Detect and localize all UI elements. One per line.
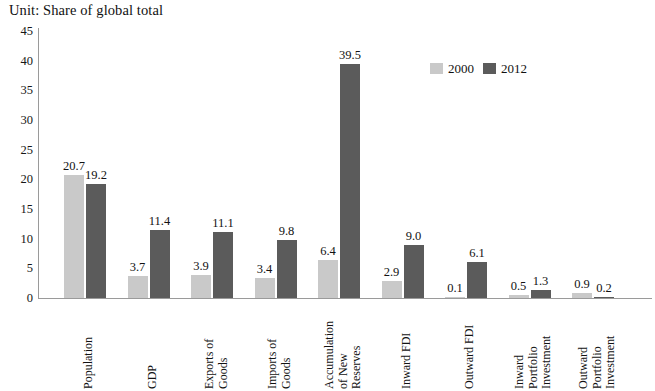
bar-value-label: 20.7 [63,160,85,173]
chart-legend: 20002012 [430,62,527,75]
bar-value-label: 6.4 [320,245,336,258]
x-axis-label-4: Imports of Goods [266,303,293,389]
bar-2012-5 [340,64,360,298]
bar-value-label: 2.9 [384,266,400,279]
legend-swatch-2000 [430,63,443,74]
bar-2000-4 [255,278,275,298]
x-axis-label-7: Outward FDI [463,303,477,389]
bar-2000-9 [572,293,592,298]
bar-2012-2 [150,230,170,298]
x-axis-label-9: Outward Portfolio Investment [577,303,618,389]
chart-title: Unit: Share of global total [9,1,163,19]
bar-value-label: 3.9 [193,260,209,273]
bar-2000-1 [64,175,84,298]
bar-value-label: 39.5 [339,49,361,62]
bar-2012-9 [594,297,614,298]
bar-value-label: 3.4 [257,263,273,276]
legend-item-2012[interactable]: 2012 [483,62,527,75]
y-axis-tick-label: 15 [21,203,34,215]
y-axis-tick-label: 45 [21,25,34,37]
bar-value-label: 11.4 [149,215,170,228]
bar-value-label: 1.3 [533,275,549,288]
bar-2000-5 [318,260,338,298]
bar-value-label: 6.1 [469,247,485,260]
bar-2012-7 [467,262,487,298]
x-axis-label-8: Inward Portfolio Investment [513,303,554,389]
bar-value-label: 0.5 [511,280,527,293]
bar-chart: Unit: Share of global total 051015202530… [0,0,655,391]
x-axis-label-3: Exports of Goods [203,303,230,389]
bar-2000-7 [445,297,465,298]
legend-label: 2012 [501,62,527,75]
bar-value-label: 9.0 [406,230,422,243]
legend-label: 2000 [448,62,474,75]
x-axis-line [38,298,652,299]
y-axis-tick-label: 0 [27,292,33,304]
bar-2012-1 [86,184,106,298]
legend-item-2000[interactable]: 2000 [430,62,474,75]
bar-value-label: 0.1 [447,282,463,295]
bar-2000-3 [191,275,211,298]
bar-2012-4 [277,240,297,298]
x-axis-label-6: Inward FDI [400,303,414,389]
y-axis-tick-label: 35 [21,84,34,96]
bar-value-label: 3.7 [130,261,146,274]
x-axis-label-2: GDP [146,303,160,389]
bar-value-label: 9.8 [279,225,295,238]
bar-2012-3 [213,232,233,298]
bar-value-label: 11.1 [212,217,233,230]
x-axis-label-1: Population [82,303,96,389]
bar-2000-2 [128,276,148,298]
y-axis-tick-label: 25 [21,144,34,156]
bar-2012-6 [404,245,424,298]
bar-2012-8 [531,290,551,298]
legend-swatch-2012 [483,63,496,74]
y-axis-tick-label: 40 [21,55,34,67]
bar-value-label: 0.9 [574,278,590,291]
y-axis-tick-label: 30 [21,114,34,126]
x-axis-label-5: Accumulation of New Reserves [323,303,364,389]
bar-value-label: 0.2 [596,282,612,295]
bar-2000-6 [382,281,402,298]
y-axis-tick-label: 20 [21,173,34,185]
y-axis-tick-label: 5 [27,262,33,274]
bar-2000-8 [509,295,529,298]
y-axis-tick-label: 10 [21,233,34,245]
bar-value-label: 19.2 [85,169,107,182]
plot-area: 051015202530354045 20.719.23.711.43.911.… [38,31,652,298]
